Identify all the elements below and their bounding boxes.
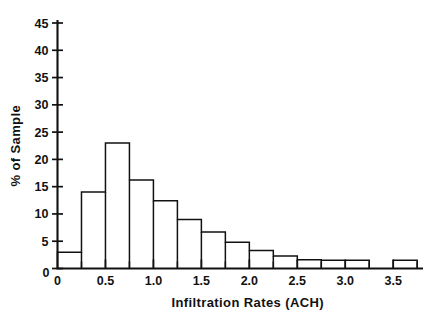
histogram-chart: 051015202530354045 00.51.01.52.02.53.03.… xyxy=(0,0,442,321)
y-tick-label-5: 5 xyxy=(42,235,49,249)
y-tick-label-15: 15 xyxy=(35,180,49,194)
y-tick-label-45: 45 xyxy=(35,17,49,31)
y-tick-label-20: 20 xyxy=(35,153,49,167)
x-axis-tick-labels: 00.51.01.52.02.53.03.5 xyxy=(54,274,402,288)
chart-canvas: 051015202530354045 00.51.01.52.02.53.03.… xyxy=(0,0,442,321)
y-tick-label-10: 10 xyxy=(35,207,49,221)
y-tick-label-25: 25 xyxy=(35,126,49,140)
x-tick-label-0.5: 0.5 xyxy=(97,274,114,288)
bars-group xyxy=(58,143,418,268)
y-tick-label-0: 0 xyxy=(43,266,50,280)
x-tick-label-2.5: 2.5 xyxy=(289,274,306,288)
x-tick-label-1.0: 1.0 xyxy=(145,274,162,288)
axes-group xyxy=(58,21,423,269)
y-tick-label-35: 35 xyxy=(35,71,49,85)
x-axis-title: Infiltration Rates (ACH) xyxy=(171,295,324,310)
x-tick-label-0: 0 xyxy=(54,274,61,288)
x-tick-label-2.0: 2.0 xyxy=(241,274,258,288)
axis-lines xyxy=(58,21,423,269)
histogram-outline xyxy=(58,143,418,268)
y-axis-tick-labels: 051015202530354045 xyxy=(35,17,50,280)
y-tick-label-40: 40 xyxy=(35,44,49,58)
y-axis-title: % of Sample xyxy=(8,105,23,187)
y-tick-label-30: 30 xyxy=(35,98,49,112)
x-tick-label-3.5: 3.5 xyxy=(385,274,402,288)
x-tick-label-1.5: 1.5 xyxy=(193,274,210,288)
x-tick-label-3.0: 3.0 xyxy=(337,274,354,288)
